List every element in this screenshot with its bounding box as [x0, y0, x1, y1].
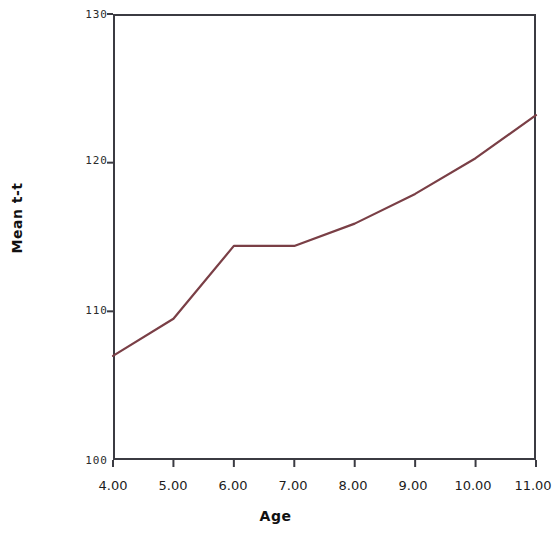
plot-area-frame: [113, 14, 536, 460]
x-tick-label-11: 11.00: [498, 478, 556, 493]
y-tick-label-130: 130: [48, 8, 108, 21]
y-tick-label-120: 120: [48, 154, 108, 167]
x-axis-title: Age: [0, 508, 551, 524]
x-axis-ticks: [113, 460, 536, 467]
y-axis-title: Mean t-t: [9, 158, 25, 278]
y-axis-tick-labels: 130 120 110 100: [40, 0, 108, 534]
y-tick-label-110: 110: [48, 304, 108, 317]
y-tick-label-100: 100: [48, 454, 108, 467]
